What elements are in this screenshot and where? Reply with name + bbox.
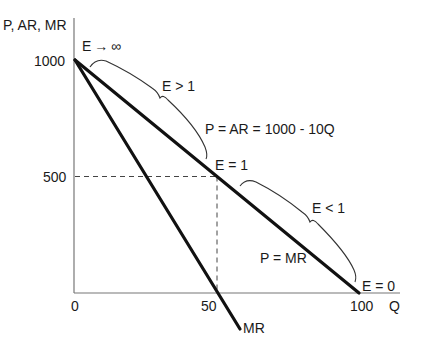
x-tick-100: 100	[350, 298, 374, 314]
elasticity-unit-label: E = 1	[215, 157, 248, 173]
elasticity-zero-label: E = 0	[362, 278, 395, 294]
elasticity-less-label: E < 1	[312, 200, 345, 216]
y-axis-title: P, AR, MR	[3, 17, 67, 33]
y-tick-500: 500	[43, 169, 67, 185]
x-tick-50: 50	[201, 298, 217, 314]
demand-elasticity-chart: P, AR, MR Q 1000 500 0 50 100 E → ∞ E > …	[0, 0, 421, 355]
p-equals-mr-label: P = MR	[260, 250, 307, 266]
mr-line-label: MR	[243, 320, 265, 336]
x-tick-0: 0	[71, 298, 79, 314]
elasticity-infinite-label: E → ∞	[82, 38, 121, 54]
elastic-region-brace	[90, 60, 207, 159]
inelastic-region-brace	[240, 181, 356, 282]
x-axis-title: Q	[389, 298, 400, 314]
ar-equation-label: P = AR = 1000 - 10Q	[205, 121, 335, 137]
y-tick-1000: 1000	[34, 53, 65, 69]
elasticity-greater-label: E > 1	[162, 78, 195, 94]
mr-line	[75, 60, 240, 329]
